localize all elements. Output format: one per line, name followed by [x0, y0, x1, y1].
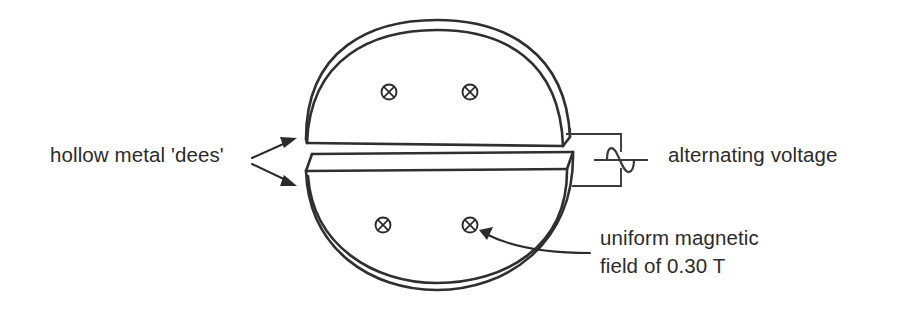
- ac-circuit: [566, 134, 648, 186]
- label-hollow-metal-dees: hollow metal 'dees': [50, 143, 224, 166]
- cyclotron-schematic-canvas: hollow metal 'dees' alternating voltage …: [0, 0, 901, 310]
- upper-dee-outer-arc: [306, 20, 570, 139]
- dees-pointer-arrows: [252, 137, 297, 186]
- field-markers-group: [376, 85, 478, 233]
- upper-dee: [306, 20, 570, 146]
- lower-dee-slab-left-edge: [306, 154, 312, 171]
- lower-lead-wire: [572, 168, 621, 186]
- lower-dee: [306, 152, 573, 290]
- dees-arrow-lower-head: [280, 175, 297, 186]
- upper-dee-gap-face: [307, 143, 563, 146]
- lower-dee-slab-back-edge: [312, 152, 573, 154]
- field-into-page-icon: [463, 218, 478, 233]
- lower-dee-inner-arc: [308, 169, 567, 283]
- dees-arrow-upper-head: [280, 137, 297, 148]
- field-into-page-icon: [376, 218, 391, 233]
- upper-dee-left-lip: [306, 139, 307, 143]
- label-alternating-voltage: alternating voltage: [668, 143, 837, 166]
- cyclotron-diagram: hollow metal 'dees' alternating voltage …: [0, 0, 901, 310]
- lower-dee-outer-arc: [306, 152, 573, 290]
- field-pointer-arrow: [479, 227, 590, 253]
- field-arrow-shaft: [486, 234, 590, 253]
- lower-dee-slab-front-edge: [306, 169, 567, 171]
- field-into-page-icon: [382, 85, 397, 100]
- field-into-page-icon: [463, 85, 478, 100]
- label-magnetic-field-line2: field of 0.30 T: [600, 254, 726, 277]
- field-arrow-head: [479, 227, 493, 240]
- label-magnetic-field-line1: uniform magnetic: [600, 226, 759, 249]
